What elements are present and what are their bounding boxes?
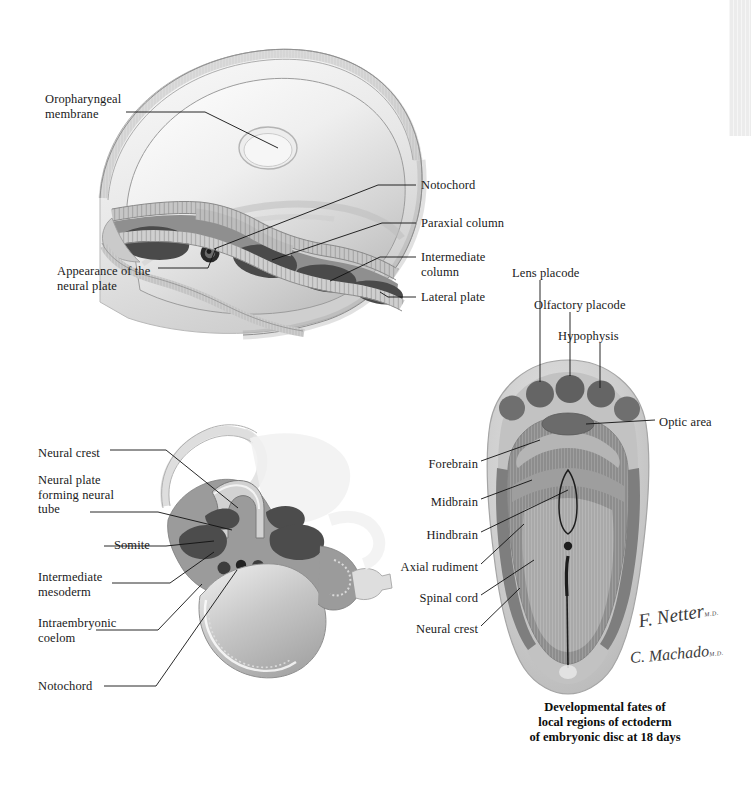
placode-far-right <box>614 397 640 422</box>
label-axial-rudiment: Axial rudiment <box>360 560 478 575</box>
figure-caption: Developmental fates of local regions of … <box>485 700 725 745</box>
label-intermediate-mesoderm: Intermediate mesoderm <box>38 570 158 599</box>
label-neural-crest-right: Neural crest <box>360 622 478 637</box>
placode-lens-left <box>526 381 554 408</box>
label-optic-area: Optic area <box>659 415 749 430</box>
label-lens-placode: Lens placode <box>512 266 632 281</box>
yolk-sac <box>199 564 326 678</box>
label-forebrain: Forebrain <box>360 457 478 472</box>
label-paraxial-column: Paraxial column <box>421 216 571 231</box>
primitive-node <box>564 542 572 550</box>
label-intraembryonic-coelom: Intraembryonic coelom <box>38 616 160 645</box>
label-neural-plate-forming-neural-tube: Neural plate forming neural tube <box>38 473 158 517</box>
figure-bottom-left-artwork <box>90 425 392 686</box>
label-olfactory-placode: Olfactory placode <box>534 298 664 313</box>
label-appearance-of-neural-plate: Appearance of the neural plate <box>57 264 197 293</box>
placode-hypophysis <box>556 375 585 403</box>
label-neural-crest: Neural crest <box>38 446 158 461</box>
label-somite: Somite <box>38 538 150 553</box>
label-midbrain: Midbrain <box>360 495 478 510</box>
label-spinal-cord: Spinal cord <box>360 591 478 606</box>
label-oropharyngeal-membrane: Oropharyngeal membrane <box>45 92 175 121</box>
primitive-streak-line <box>567 596 568 668</box>
machado-signature-suffix: M.D. <box>709 650 724 657</box>
placode-far-left <box>499 396 525 421</box>
label-notochord: Notochord <box>421 178 561 193</box>
illustration-page: Oropharyngeal membrane Appearance of the… <box>0 0 751 787</box>
label-notochord-lower: Notochord <box>38 679 158 694</box>
label-hypophysis: Hypophysis <box>558 329 668 344</box>
label-hindbrain: Hindbrain <box>360 528 478 543</box>
placode-olfactory-right <box>587 381 615 408</box>
netter-signature-suffix: M.D. <box>704 610 719 618</box>
